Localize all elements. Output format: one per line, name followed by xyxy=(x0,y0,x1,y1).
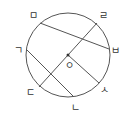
circle-diagram: ㅇ ㅁ ㄹ ㅂ ㄱ ㄷ ㄴ ㅅ xyxy=(0,0,131,115)
label-digeut: ㄷ xyxy=(26,87,35,98)
center-label: ㅇ xyxy=(65,60,74,71)
label-giyeok: ㄱ xyxy=(14,45,23,56)
label-bieup: ㅂ xyxy=(111,45,120,56)
label-nieun: ㄴ xyxy=(71,102,80,113)
center-point xyxy=(67,54,70,57)
label-mieum: ㅁ xyxy=(29,10,38,21)
label-siot: ㅅ xyxy=(100,84,109,95)
label-rieul: ㄹ xyxy=(99,10,108,21)
